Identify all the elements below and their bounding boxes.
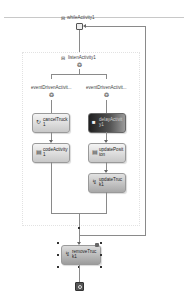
branch-left-label: eventDrivenActivit...: [31, 85, 72, 90]
node-delay-activity[interactable]: ■ delayActivity1: [88, 113, 126, 133]
while-collapse-icon[interactable]: ⊟: [61, 15, 65, 21]
listen-collapse-icon[interactable]: ⊟: [61, 55, 65, 61]
while-activity-label: whileActivity1: [67, 15, 95, 20]
branch-right-label: eventDrivenActivit...: [86, 85, 127, 90]
selection-handle-mr[interactable]: [100, 254, 102, 256]
branch-right-drop: [106, 74, 107, 79]
listen-activity-label: listenActivity1: [68, 55, 96, 60]
branch-left-icon: ❂: [48, 92, 54, 98]
branch-right-icon: ❂: [103, 92, 109, 98]
event-handler-icon: ↻: [36, 119, 42, 125]
node-update-position[interactable]: ▤ updatePosition: [88, 143, 126, 163]
node-code-activity[interactable]: ▤ codeActivity1: [32, 143, 70, 163]
delay-icon: ■: [92, 119, 98, 125]
event-handler-icon: ↯: [92, 179, 98, 185]
branch-left-drop: [51, 74, 52, 79]
node-label: updatePosition: [99, 147, 124, 157]
connector-remove-to-end: [79, 265, 80, 282]
selection-handle-tr[interactable]: [100, 242, 102, 244]
event-handler-icon: ↯: [65, 251, 71, 257]
connector-point[interactable]: [78, 227, 80, 229]
node-label: updateTruck1: [99, 177, 124, 187]
selection-handle-bl[interactable]: [57, 266, 59, 268]
node-cancel-truck[interactable]: ↻ cancelTruck1: [32, 113, 70, 133]
node-remove-truck[interactable]: ↯ removeTruck1: [61, 245, 101, 265]
workflow-end-icon: [75, 282, 84, 291]
selection-handle-br[interactable]: [100, 266, 102, 268]
selection-handle-tl[interactable]: [57, 242, 59, 244]
branch-left-stem: [51, 100, 52, 113]
while-start-connector-icon[interactable]: [76, 23, 83, 30]
branch-split-line: [51, 74, 107, 75]
node-label: codeActivity1: [43, 147, 68, 157]
node-label: delayActivity1: [99, 117, 124, 127]
connector-while-to-listen: [79, 30, 80, 52]
loop-line-right: [145, 26, 146, 236]
smart-tag-icon[interactable]: [95, 243, 99, 247]
loop-line-bottom: [79, 235, 146, 236]
branch-right-tail: [106, 192, 107, 213]
selection-handle-ml[interactable]: [57, 254, 59, 256]
listen-activity-icon: ❂: [76, 62, 82, 68]
node-label: removeTruck1: [72, 249, 97, 259]
node-label: cancelTruck1: [43, 117, 68, 127]
branch-left-tail: [51, 162, 52, 213]
code-icon: ▤: [36, 149, 42, 155]
loop-line-top: [86, 26, 146, 27]
branch-right-stem: [106, 100, 107, 113]
code-icon: ▤: [92, 149, 98, 155]
node-update-truck[interactable]: ↯ updateTruck1: [88, 173, 126, 193]
